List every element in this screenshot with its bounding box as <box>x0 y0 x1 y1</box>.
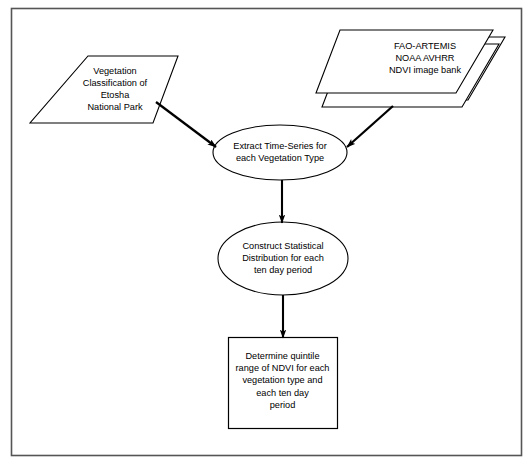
flowchart-canvas: Vegetation Classification of Etosha Nati… <box>0 0 532 465</box>
flowchart-graphics <box>0 0 532 465</box>
node-extract-time-series <box>213 125 347 180</box>
node-determine-quintile <box>229 338 338 429</box>
node-construct-distribution <box>218 222 348 295</box>
